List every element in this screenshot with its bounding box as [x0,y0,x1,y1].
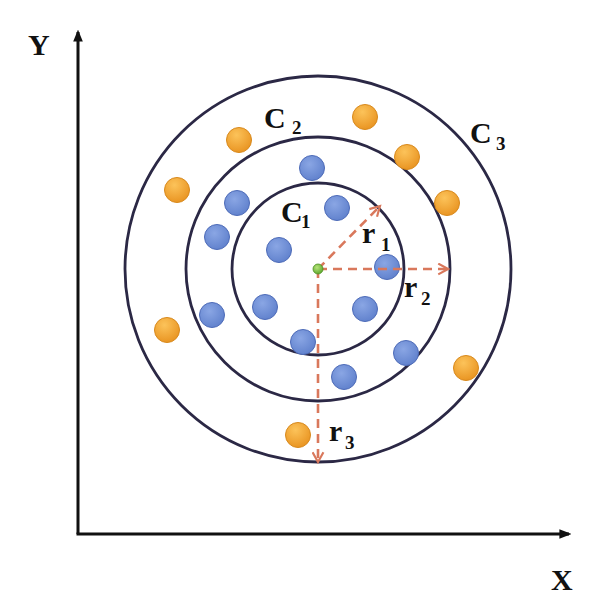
orange-point [165,178,190,203]
orange-point [227,128,252,153]
svg-text:3: 3 [496,133,506,154]
label-c1: C1 [281,195,311,232]
blue-point [267,238,292,263]
center-point [313,264,323,274]
blue-point [332,365,357,390]
blue-point [225,191,250,216]
svg-text:r: r [404,270,417,303]
blue-point [300,156,325,181]
svg-text:C: C [281,195,303,228]
label-r1: r1 [362,216,391,255]
svg-text:C: C [264,101,286,134]
axes: YX [28,28,573,596]
orange-point [286,423,311,448]
orange-point [395,145,420,170]
svg-text:2: 2 [292,117,302,138]
blue-point [200,303,225,328]
svg-text:C: C [470,116,492,149]
blue-point [394,341,419,366]
cluster-diagram: YX C1C2C3r1r2r3 [0,0,604,607]
label-c3: C3 [470,116,506,154]
y-axis-label: Y [28,28,50,61]
label-c2: C2 [264,101,302,138]
svg-text:r: r [362,216,375,249]
orange-point [454,356,479,381]
label-r3: r3 [329,414,355,453]
svg-text:2: 2 [421,288,431,309]
svg-text:r: r [329,414,342,447]
blue-point [291,330,316,355]
blue-point [325,196,350,221]
center-dot [313,264,323,274]
svg-text:1: 1 [381,234,391,255]
blue-point [375,255,400,280]
x-axis-label: X [551,563,573,596]
orange-point [353,105,378,130]
orange-point [435,191,460,216]
blue-point [253,295,278,320]
svg-text:1: 1 [301,211,311,232]
blue-point [205,225,230,250]
blue-point [353,297,378,322]
orange-point [155,318,180,343]
svg-text:3: 3 [345,432,355,453]
label-r2: r2 [404,270,431,309]
